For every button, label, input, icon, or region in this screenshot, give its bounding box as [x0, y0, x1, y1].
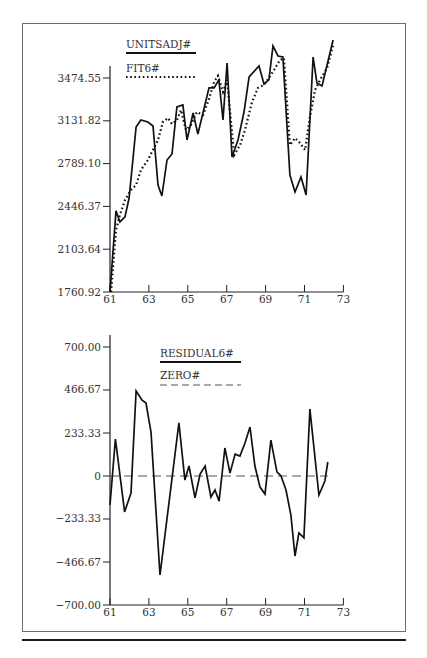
x-tick-label: 71 — [298, 293, 311, 305]
bottom-chart-y-tick-labels: −700.00−466.67−233.330233.33466.67700.00 — [55, 341, 101, 611]
x-tick-label: 73 — [337, 606, 350, 618]
y-tick-label: 233.33 — [64, 427, 101, 439]
bottom-chart-legend: RESIDUAL6# ZERO# — [160, 347, 241, 385]
bottom-chart-x-tick-labels: 61636567697173 — [103, 606, 350, 618]
y-tick-label: 2789.10 — [58, 157, 101, 169]
x-tick-label: 67 — [220, 606, 233, 618]
legend-label-zero: ZERO# — [160, 369, 200, 381]
residual6-series-line — [110, 391, 328, 575]
x-tick-label: 69 — [259, 606, 272, 618]
x-tick-label: 69 — [259, 293, 272, 305]
y-tick-label: −466.67 — [55, 556, 101, 568]
y-tick-label: 2446.37 — [58, 200, 101, 212]
x-tick-label: 67 — [220, 293, 233, 305]
x-tick-label: 63 — [142, 606, 155, 618]
x-tick-label: 73 — [337, 293, 350, 305]
x-tick-label: 65 — [181, 606, 194, 618]
y-tick-label: 466.67 — [64, 383, 101, 395]
y-tick-label: 1760.92 — [58, 286, 101, 298]
x-tick-label: 71 — [298, 606, 311, 618]
legend-label-fit6: FIT6# — [126, 62, 160, 74]
top-chart: 1760.922103.642446.372789.103131.823474.… — [0, 0, 427, 310]
y-tick-label: −233.33 — [55, 512, 101, 524]
y-tick-label: −700.00 — [55, 599, 101, 611]
fit6-series-line — [111, 45, 333, 292]
x-tick-label: 61 — [103, 293, 116, 305]
x-tick-label: 61 — [103, 606, 116, 618]
x-tick-label: 65 — [181, 293, 194, 305]
top-chart-y-tick-labels: 1760.922103.642446.372789.103131.823474.… — [58, 72, 102, 298]
legend-label-residual6: RESIDUAL6# — [160, 347, 234, 359]
y-tick-label: 3131.82 — [58, 114, 101, 126]
bottom-chart: −700.00−466.67−233.330233.33466.67700.00… — [0, 320, 427, 650]
y-tick-label: 3474.55 — [58, 72, 101, 84]
y-tick-label: 0 — [94, 470, 101, 482]
legend-label-unitsadj: UNITSADJ# — [126, 38, 191, 50]
y-tick-label: 2103.64 — [58, 243, 102, 255]
y-tick-label: 700.00 — [64, 341, 101, 353]
x-tick-label: 63 — [142, 293, 155, 305]
top-chart-legend: UNITSADJ# FIT6# — [126, 38, 196, 77]
caption-rule — [22, 639, 406, 641]
top-chart-x-tick-labels: 61636567697173 — [103, 293, 350, 305]
